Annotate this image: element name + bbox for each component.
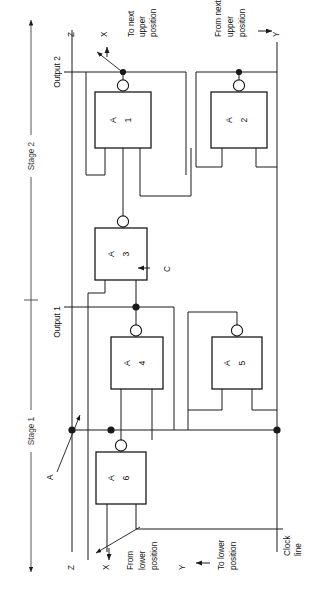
gate-a4-letter: A: [122, 360, 132, 366]
background: [0, 0, 312, 596]
gate-a3-letter: A: [106, 251, 116, 257]
gate-a5-letter: A: [222, 360, 232, 366]
gate-a3[interactable]: A 3: [95, 228, 147, 280]
gate-a2-number: 2: [239, 117, 249, 122]
z-bottom-label: Z: [67, 565, 76, 570]
to-next-upper-line2: upper: [138, 16, 147, 37]
x-bottom-label: X: [102, 564, 111, 570]
stage-2-label: Stage 2: [27, 141, 36, 170]
x-top-label: X: [100, 31, 109, 37]
clock-line-label1: Clock: [283, 535, 292, 556]
to-next-upper-line1: To next: [127, 10, 136, 37]
gate-a6[interactable]: A 6: [96, 452, 146, 504]
from-lower-line3: position: [150, 541, 159, 570]
from-next-upper-line2: upper: [226, 16, 235, 37]
gate-a6-letter: A: [106, 475, 116, 481]
gate-a6-number: 6: [121, 475, 131, 480]
y-top-label: Y: [272, 31, 281, 37]
gate-a5[interactable]: A 5: [212, 337, 262, 389]
from-next-upper-line3: position: [238, 8, 247, 37]
gate-a6-output-bubble: [115, 440, 126, 451]
y-bottom-label: Y: [178, 564, 187, 570]
gate-a1-letter: A: [108, 117, 118, 123]
to-lower-line2: position: [229, 541, 238, 570]
a-signal-label: A: [46, 474, 55, 480]
from-next-upper-line1: From next: [214, 0, 223, 37]
to-lower-line1: To lower: [217, 539, 226, 570]
stage-1-label: Stage 1: [27, 416, 36, 445]
output2-label: Output 2: [53, 56, 62, 88]
gate-a4[interactable]: A 4: [111, 337, 163, 389]
gate-a1[interactable]: A 1: [95, 92, 151, 148]
circuit-diagram-svg: Stage 2 Stage 1 A 1: [0, 0, 312, 596]
clock-line-label2: line: [294, 543, 303, 556]
gate-a1-number: 1: [123, 117, 133, 122]
from-lower-line1: From: [126, 551, 135, 570]
output1-label: Output 1: [53, 306, 62, 338]
from-lower-line2: lower: [138, 550, 147, 570]
c-input-label: C: [163, 266, 172, 272]
gate-a2-letter: A: [224, 117, 234, 123]
diagram-canvas: Stage 2 Stage 1 A 1: [0, 0, 312, 596]
gate-a3-output-bubble: [117, 216, 128, 227]
gate-a4-number: 4: [137, 360, 147, 365]
gate-a4-output-bubble: [130, 325, 141, 336]
gate-a2[interactable]: A 2: [211, 92, 267, 148]
gate-a5-number: 5: [237, 360, 247, 365]
z-top-label: Z: [67, 32, 76, 37]
gate-a3-number: 3: [121, 251, 131, 256]
to-next-upper-line3: position: [149, 8, 158, 37]
